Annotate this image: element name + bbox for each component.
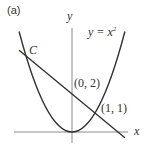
point-0-2-label: (0, 2) — [74, 77, 100, 89]
panel-label: (a) — [7, 5, 20, 16]
curve-equation-text: y = x — [88, 25, 113, 39]
curve-equation-exponent: 2 — [113, 25, 117, 33]
point-1-1-label: (1, 1) — [101, 102, 127, 114]
curve-equation-label: y = x2 — [88, 26, 116, 38]
diagram-canvas — [0, 0, 147, 148]
parabola-line-diagram: (a) y y = x2 C (0, 2) (1, 1) x — [0, 0, 147, 148]
point-c-label: C — [29, 44, 37, 56]
y-axis-label: y — [67, 10, 72, 22]
x-axis-label: x — [134, 125, 139, 137]
